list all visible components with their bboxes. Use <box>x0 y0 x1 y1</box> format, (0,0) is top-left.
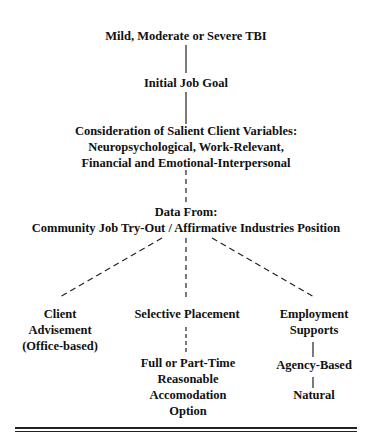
node-data-from-line-1: Data From: <box>155 205 218 220</box>
node-client-advisement-line-1: Client <box>44 307 77 322</box>
node-selective-placement: Selective Placement <box>134 307 239 322</box>
node-consideration-line-2: Neuropsychological, Work-Relevant, <box>88 140 284 155</box>
node-client-advisement-line-3: (Office-based) <box>22 339 98 354</box>
node-initial-job-goal: Initial Job Goal <box>144 76 228 91</box>
node-employment-supports-line-2: Supports <box>290 323 339 338</box>
node-employment-supports-line-1: Employment <box>280 307 349 322</box>
bottom-rule-upper <box>15 427 357 429</box>
node-client-advisement-line-2: Advisement <box>28 323 91 338</box>
edge-data-client <box>60 238 162 297</box>
node-data-from-line-2: Community Job Try-Out / Affirmative Indu… <box>32 221 341 236</box>
node-consideration-line-3: Financial and Emotional-Interpersonal <box>81 156 290 171</box>
node-consideration-line-1: Consideration of Salient Client Variable… <box>75 124 297 139</box>
node-full-part-time-line-3: Accomodation <box>149 388 226 403</box>
node-full-part-time-line-2: Reasonable <box>157 372 218 387</box>
node-full-part-time-line-1: Full or Part-Time <box>141 356 236 371</box>
node-agency-based: Agency-Based <box>276 358 352 373</box>
node-tbi: Mild, Moderate or Severe TBI <box>105 29 266 44</box>
node-natural: Natural <box>293 388 335 403</box>
node-full-part-time-line-4: Option <box>169 404 207 419</box>
bottom-rule-lower <box>15 431 357 432</box>
edge-data-employ <box>212 238 314 297</box>
